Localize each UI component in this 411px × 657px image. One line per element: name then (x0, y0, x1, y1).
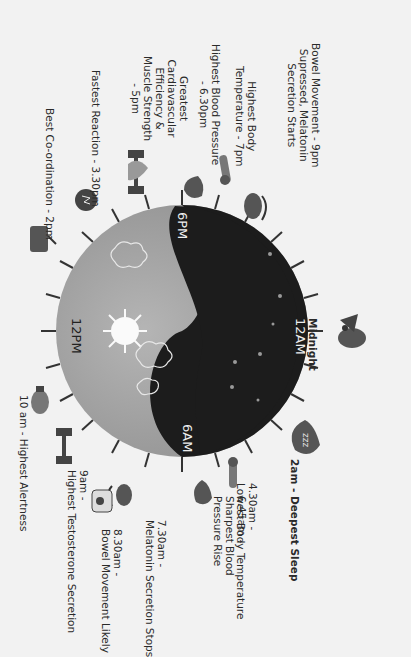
eye-icon-evening (244, 193, 266, 220)
event-high-bp: Highest Blood Pressure- 6.30pm (198, 44, 222, 165)
event-bowel-likely: 8.30am -Bowel Movement Likely (100, 529, 124, 653)
heart-dumbbell-icon (128, 150, 148, 194)
event-alertness: 10 am - Highest Alertness (18, 395, 30, 531)
label-6am: 6AM (180, 424, 195, 452)
label-12pm: 12PM (69, 318, 84, 354)
drop-lightning-icon (184, 176, 203, 198)
event-bowel-suppressed: Bowel Movement - 9pmSupressed, Melatonin… (286, 43, 322, 168)
zzz-drop-icon: zzz (292, 420, 320, 454)
event-cardio: GreatestCardiavascularEfficiency &Muscle… (130, 56, 190, 141)
bird-icon (338, 314, 366, 348)
toilet-roll-icon (92, 490, 112, 512)
event-high-temp: Highest BodyTemperature - 7pm (234, 66, 258, 167)
svg-text:zzz: zzz (301, 433, 311, 447)
event-bp-rise: 6.45am -Sharpest BloodPressure Rise (212, 496, 248, 576)
dumbbell-icon (56, 428, 72, 464)
drop-pulse-icon (194, 480, 212, 504)
event-testosterone: 9am -Highest Testosterone Secretion (66, 470, 90, 633)
lightbulb-icon (31, 386, 49, 414)
event-melatonin-stop: 7.30am -Melatonin Secretion Stops (144, 520, 168, 657)
label-6pm: 6PM (175, 212, 190, 239)
event-coordination: Best Co-ordination - 2pm (44, 108, 56, 240)
event-midnight: Midnight (307, 318, 319, 371)
label-12am: 12AM (293, 318, 308, 355)
event-deep-sleep: 2am - Deepest Sleep (289, 459, 301, 581)
event-reaction: Fastest Reaction - 3.30pm (90, 70, 102, 207)
